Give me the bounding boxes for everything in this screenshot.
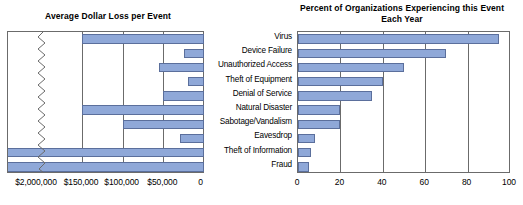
right-chart-tick-label: 40 (377, 177, 386, 187)
category-label-row: Virus (206, 31, 294, 45)
right-chart-bar (298, 63, 404, 72)
left-chart-tick-label: 0 (198, 177, 203, 187)
right-chart-bar-row (298, 75, 509, 89)
axis-break-zigzag-icon (30, 31, 54, 173)
right-chart-bar (298, 49, 446, 58)
category-label-row: Theft of Information (206, 145, 294, 159)
category-label-row: Theft of Equipment (206, 74, 294, 88)
category-label: Theft of Equipment (226, 74, 292, 86)
left-chart-bar (159, 63, 204, 72)
right-chart-bar (298, 105, 340, 114)
right-chart-bar-row (298, 117, 509, 131)
right-chart-tick-label: 60 (420, 177, 429, 187)
category-label: Device Failure (242, 45, 292, 57)
left-chart-bar (188, 77, 204, 86)
category-label: Sabotage/Vandalism (220, 116, 292, 128)
left-chart-tick-label: $2,000,000 (15, 177, 57, 187)
right-chart-bar-row (298, 89, 509, 103)
left-chart-tick-label: $150,000 (64, 177, 99, 187)
category-label: Unauthorized Access (218, 59, 292, 71)
left-chart-bar (82, 34, 204, 43)
category-label: Natural Disaster (236, 102, 292, 114)
category-label: Virus (274, 31, 292, 43)
right-chart-tick-label: 0 (295, 177, 300, 187)
right-chart-bar-row (298, 46, 509, 60)
left-chart-bar (184, 49, 204, 58)
left-chart-title: Average Dollar Loss per Event (8, 11, 208, 22)
right-chart-title: Percent of Organizations Experiencing th… (292, 3, 512, 25)
category-label-row: Fraud (206, 159, 294, 173)
category-label-row: Eavesdrop (206, 130, 294, 144)
right-chart-tick-label: 100 (502, 177, 516, 187)
left-chart-bar (163, 91, 204, 100)
right-chart-bar-row (298, 160, 509, 174)
left-chart-tick-label: $50,000 (147, 177, 177, 187)
right-chart-plot-area (297, 31, 510, 173)
left-chart-bar (82, 105, 204, 114)
category-label-row: Natural Disaster (206, 102, 294, 116)
left-chart-bar (123, 120, 204, 129)
right-chart-bar (298, 91, 372, 100)
left-chart-bar (180, 134, 204, 143)
chart-figure: Average Dollar Loss per Event Percent of… (0, 0, 523, 205)
right-chart-bar (298, 148, 311, 157)
right-chart-bar (298, 34, 499, 43)
category-label: Fraud (271, 159, 292, 171)
left-chart-tick-label: $100,000 (104, 177, 139, 187)
category-label-row: Unauthorized Access (206, 59, 294, 73)
category-label-row: Device Failure (206, 45, 294, 59)
right-chart-tick-label: 20 (335, 177, 344, 187)
category-label: Denial of Service (233, 88, 292, 100)
right-chart-bar-row (298, 146, 509, 160)
right-chart-bar (298, 77, 383, 86)
right-chart-bar-row (298, 131, 509, 145)
right-chart-bar (298, 162, 309, 171)
category-label: Eavesdrop (254, 130, 292, 142)
right-chart-bar (298, 120, 340, 129)
right-chart-tick-label: 80 (462, 177, 471, 187)
category-label: Theft of Information (224, 145, 292, 157)
right-chart-bar-row (298, 32, 509, 46)
right-chart-bar-row (298, 60, 509, 74)
right-chart-bar (298, 134, 315, 143)
category-label-row: Sabotage/Vandalism (206, 116, 294, 130)
right-chart-bar-row (298, 103, 509, 117)
category-label-row: Denial of Service (206, 88, 294, 102)
category-axis-labels: VirusDevice FailureUnauthorized AccessTh… (206, 31, 294, 173)
